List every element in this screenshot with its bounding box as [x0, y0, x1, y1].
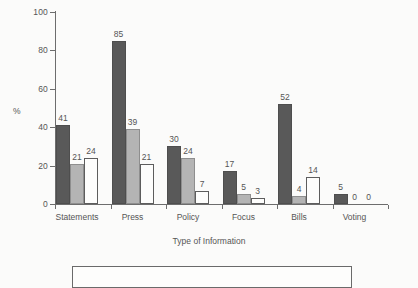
y-axis-tick [50, 50, 55, 51]
bar [84, 158, 98, 204]
y-axis-tick [50, 166, 55, 167]
y-axis-tick-label-wrap: 100 [0, 8, 48, 17]
x-axis-category-label: Voting [315, 212, 395, 222]
y-axis-tick-label: 60 [4, 85, 48, 94]
y-axis-tick [50, 12, 55, 13]
bar-value-label: 41 [50, 114, 76, 123]
bar [70, 164, 84, 204]
y-axis-tick-label: 40 [4, 123, 48, 132]
bar-value-label: 24 [175, 147, 201, 156]
bar [195, 191, 209, 204]
bar [140, 164, 154, 204]
x-axis-tick [166, 205, 167, 209]
bar-value-label: 17 [217, 160, 243, 169]
y-axis-tick-label: 100 [4, 8, 48, 17]
y-axis-tick-label-wrap: 0 [0, 200, 48, 209]
bar-value-label: 21 [134, 153, 160, 162]
y-axis-title: % [13, 106, 21, 116]
y-axis-tick-label: 0 [4, 200, 48, 209]
x-axis-tick [333, 205, 334, 209]
bar [56, 125, 70, 204]
y-axis-tick-label-wrap: 20 [0, 162, 48, 171]
bar-value-label: 52 [272, 93, 298, 102]
bar-value-label: 5 [328, 183, 354, 192]
bar-value-label: 30 [161, 135, 187, 144]
bar [306, 177, 320, 204]
x-axis-title: Type of Information [0, 236, 418, 246]
bar-value-label: 39 [120, 118, 146, 127]
y-axis-tick-label-wrap: 80 [0, 46, 48, 55]
plot-area: 41212485392130247175352414500 [56, 12, 388, 204]
y-axis-tick [50, 127, 55, 128]
x-axis-tick [222, 205, 223, 209]
y-axis-tick-label-wrap: 60 [0, 85, 48, 94]
x-axis-tick [277, 205, 278, 209]
bar-value-label: 24 [78, 147, 104, 156]
y-axis-tick-label: 80 [4, 46, 48, 55]
y-axis-tick-label-wrap: 40 [0, 123, 48, 132]
x-axis-tick [388, 205, 389, 209]
bar-value-label: 7 [189, 180, 215, 189]
bar [126, 129, 140, 204]
bar [292, 196, 306, 204]
y-axis-tick-label: 20 [4, 162, 48, 171]
x-axis-tick [111, 205, 112, 209]
bar [251, 198, 265, 204]
legend-box [72, 266, 352, 288]
y-axis-tick [50, 89, 55, 90]
bar-value-label: 85 [106, 30, 132, 39]
bar-value-label: 0 [356, 193, 382, 202]
bar-value-label: 14 [300, 166, 326, 175]
x-axis-tick [55, 205, 56, 209]
bar-value-label: 3 [245, 187, 271, 196]
